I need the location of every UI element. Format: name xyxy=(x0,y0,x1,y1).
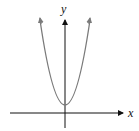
x-axis-label: x xyxy=(127,106,134,120)
y-axis-label: y xyxy=(60,2,67,16)
parabola-graph: x y xyxy=(0,0,139,131)
